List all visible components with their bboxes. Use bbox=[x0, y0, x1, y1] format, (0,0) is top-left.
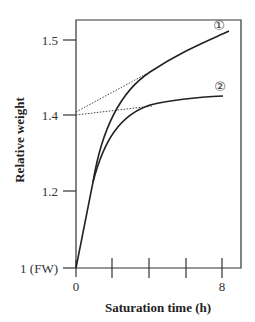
chart: 1.5 1.4 1.2 1 (FW) 0 8 Saturation time (… bbox=[0, 0, 255, 322]
y-axis-ticks bbox=[63, 40, 76, 268]
series-1-curve bbox=[76, 31, 229, 268]
y-tick-label-1.4: 1.4 bbox=[42, 108, 59, 123]
x-tick-label-0: 0 bbox=[73, 279, 80, 294]
y-tick-label-1fw: 1 (FW) bbox=[20, 261, 58, 276]
series-2-label: ② bbox=[214, 79, 226, 94]
y-axis-title: Relative weight bbox=[12, 97, 27, 183]
x-axis-title: Saturation time (h) bbox=[105, 300, 211, 315]
series-1-extrapolation bbox=[76, 74, 146, 112]
series-2-curve bbox=[93, 96, 223, 182]
y-tick-label-1.5: 1.5 bbox=[42, 33, 58, 48]
y-tick-label-1.2: 1.2 bbox=[42, 184, 58, 199]
x-tick-label-8: 8 bbox=[219, 279, 226, 294]
series-1-label: ① bbox=[213, 18, 225, 33]
plot-frame bbox=[76, 20, 241, 268]
